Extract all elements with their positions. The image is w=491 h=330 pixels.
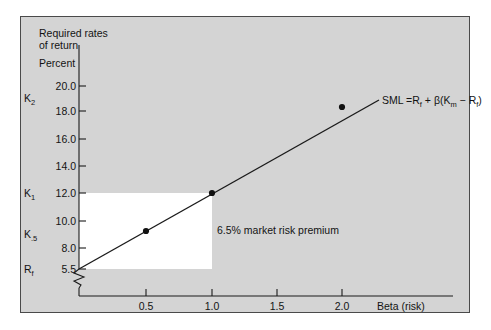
label-rf: Rf <box>24 263 34 279</box>
x-axis-label: Beta (risk) <box>377 300 425 312</box>
label-rf-base: R <box>24 263 32 275</box>
x-tick-label-1-5: 1.5 <box>257 300 297 312</box>
y-tick-label-20: 20.0 <box>36 80 76 92</box>
y-axis-unit-label: Percent <box>39 57 75 69</box>
sml-formula-mid: + β(K <box>422 94 451 106</box>
x-tick-marks <box>146 289 342 296</box>
label-k2-sub: 2 <box>31 98 35 107</box>
label-rf-sub: f <box>32 269 34 278</box>
sml-plot <box>21 17 471 314</box>
chart-panel: Required rates of return Percent 20.0 18… <box>20 16 470 313</box>
x-tick-label-0-5: 0.5 <box>126 300 166 312</box>
data-point-beta-1-0 <box>209 190 215 196</box>
label-k1: K1 <box>24 187 35 203</box>
data-point-beta-2-0 <box>339 104 345 110</box>
label-k2-base: K <box>24 92 31 104</box>
data-point-beta-0-5 <box>143 228 149 234</box>
sml-formula-annotation: SML =Rf + β(Km − Rf) <box>382 94 482 110</box>
y-tick-label-14: 14.0 <box>36 160 76 172</box>
label-k1-base: K <box>24 187 31 199</box>
sml-line <box>79 100 379 269</box>
y-tick-label-5-5: 5.5 <box>36 263 76 275</box>
axis-title-line1: Required rates <box>39 27 108 39</box>
figure-root: Required rates of return Percent 20.0 18… <box>0 0 491 330</box>
label-k05-sub: .5 <box>31 234 37 243</box>
y-tick-label-12: 12.0 <box>36 187 76 199</box>
x-tick-label-2-0: 2.0 <box>322 300 362 312</box>
label-k2: K2 <box>24 92 35 108</box>
y-tick-label-10: 10.0 <box>36 215 76 227</box>
axis-title-line2: of return <box>39 39 78 51</box>
sml-formula-end: ) <box>478 94 482 106</box>
x-tick-label-1-0: 1.0 <box>192 300 232 312</box>
market-risk-premium-note: 6.5% market risk premium <box>217 224 339 236</box>
sml-formula-prefix: SML =R <box>382 94 420 106</box>
label-k1-sub: 1 <box>31 193 35 202</box>
label-k05: K.5 <box>24 228 37 244</box>
sml-formula-tail: − R <box>457 94 477 106</box>
label-k05-base: K <box>24 228 31 240</box>
y-tick-label-16: 16.0 <box>36 133 76 145</box>
y-tick-label-8: 8.0 <box>36 242 76 254</box>
axis-title: Required rates of return <box>39 27 108 52</box>
y-tick-label-18: 18.0 <box>36 105 76 117</box>
